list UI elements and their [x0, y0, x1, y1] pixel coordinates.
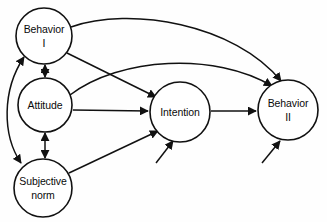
node-behavior1-label-line1: Behavior: [24, 23, 65, 35]
node-attitude[interactable]: Attitude: [18, 78, 72, 132]
node-subjective-norm-label-line1: Subjective: [19, 175, 67, 187]
node-subjective-norm[interactable]: Subjective norm: [14, 159, 72, 217]
node-subjective-norm-label-line2: norm: [31, 189, 55, 201]
node-intention-label: Intention: [160, 106, 200, 118]
model-svg-canvas: Behavior I Attitude Subjective norm Inte…: [0, 0, 327, 222]
node-behavior1-label-line2: I: [43, 37, 46, 49]
path-diagram: Behavior I Attitude Subjective norm Inte…: [0, 0, 327, 222]
edge-attitude-to-intention: [73, 110, 148, 111]
edge-behavior1-to-intention: [67, 53, 156, 97]
node-attitude-label: Attitude: [28, 99, 63, 111]
node-behavior1[interactable]: Behavior I: [16, 8, 72, 64]
node-behavior2-label-line2: II: [285, 111, 291, 123]
node-intention[interactable]: Intention: [150, 82, 210, 142]
node-behavior2-label-line1: Behavior: [268, 97, 309, 109]
node-behavior2[interactable]: Behavior II: [258, 80, 318, 140]
edge-external-to-behavior2: [262, 141, 280, 163]
edge-behavior1-to-behavior2: [71, 19, 281, 81]
edge-subjective-to-intention: [69, 131, 158, 173]
node-layer: Behavior I Attitude Subjective norm Inte…: [14, 8, 318, 217]
edge-external-to-intention: [156, 141, 173, 163]
